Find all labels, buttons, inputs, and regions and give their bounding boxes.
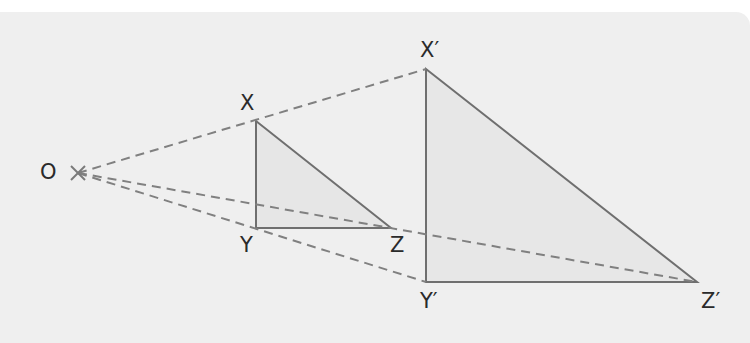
label-z-prime: Z′ [701,291,720,312]
ray-o-to-x-prime [78,69,426,173]
label-x-prime: X′ [420,40,439,61]
label-y-prime: Y′ [420,291,438,312]
label-o: O [40,162,57,183]
enlargement-diagram [0,0,750,343]
image-triangle [426,69,697,282]
object-triangle [256,121,391,228]
label-z: Z [390,235,404,256]
label-x: X [240,93,254,114]
label-y: Y [240,235,253,256]
